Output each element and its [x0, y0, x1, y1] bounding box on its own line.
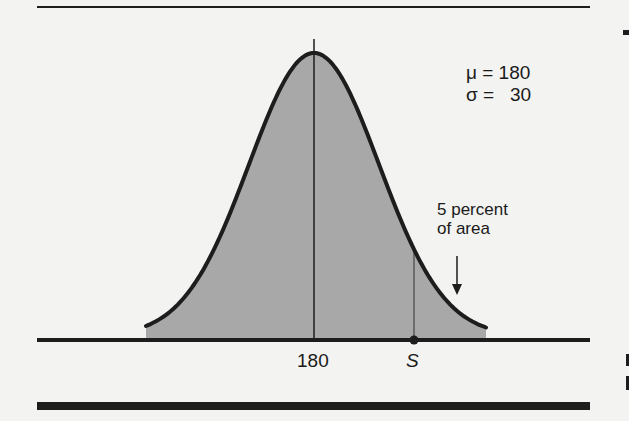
bottom-rule	[37, 402, 590, 410]
mu-label: μ = 180	[466, 62, 531, 84]
annotation-line-1: 5 percent	[437, 200, 508, 219]
curve-fill-area	[146, 53, 486, 340]
mean-tick-label: 180	[297, 351, 329, 370]
arrow-down-icon	[452, 284, 462, 295]
s-tick-label: S	[406, 351, 419, 370]
baseline-axis	[37, 338, 590, 342]
sigma-label: σ = 30	[466, 84, 531, 106]
distribution-params: μ = 180 σ = 30	[466, 62, 531, 106]
tail-annotation: 5 percent of area	[437, 200, 508, 238]
annotation-line-2: of area	[437, 219, 508, 238]
